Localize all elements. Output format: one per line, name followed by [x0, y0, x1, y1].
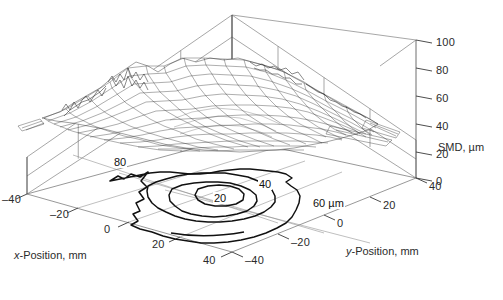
z-tick-60: 60 [436, 92, 449, 104]
x-tick--40: –40 [2, 193, 21, 205]
contour-label-20: 20 [213, 192, 227, 204]
x-axis-title-rest: -Position, mm [20, 249, 87, 261]
z-tick-80: 80 [436, 64, 449, 76]
x-tick-0: 0 [104, 223, 110, 235]
y-tick-40: 40 [429, 180, 442, 192]
x-tick-20: 20 [152, 238, 165, 250]
y-axis-title: y-Position, mm [346, 245, 419, 257]
mesh-body [42, 58, 378, 152]
contour-label-60: 60 µm [312, 197, 345, 209]
y-tick-0: 0 [337, 217, 343, 229]
z-tick-100: 100 [436, 36, 455, 48]
y-tick--20: –20 [291, 236, 310, 248]
y-tick-20: 20 [383, 199, 396, 211]
y-axis-title-rest: -Position, mm [352, 245, 419, 257]
axis-connector [232, 15, 416, 40]
figure-3d-surface-plot: 100 80 60 40 20 0 SMD, µm –40 –20 0 20 4… [0, 0, 503, 300]
x-tick-40: 40 [203, 254, 216, 266]
contour-label-80: 80 [113, 156, 127, 168]
x-axis-title: x-Position, mm [14, 249, 87, 261]
surface-mesh [18, 58, 400, 152]
contour-label-40: 40 [258, 178, 272, 190]
x-axis-ticks [16, 194, 232, 257]
z-axis-title: SMD, µm [438, 141, 484, 153]
z-tick-40: 40 [436, 120, 449, 132]
x-tick--20: –20 [50, 208, 69, 220]
y-tick--40: –40 [245, 254, 264, 266]
